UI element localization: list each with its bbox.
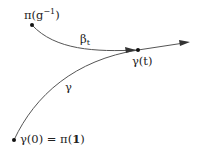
label-gamma-t: γ(t) (132, 56, 152, 68)
label-text: ) (55, 8, 60, 22)
label-text: π(g (24, 8, 43, 22)
label-text: ) (80, 132, 85, 146)
label-exponent: −1 (43, 7, 55, 16)
point-gamma-t (136, 48, 140, 52)
label-bold-identity: 1 (72, 132, 80, 146)
label-text: γ (65, 80, 72, 94)
point-pi-g-inverse (30, 23, 34, 27)
label-beta-t: βt (80, 34, 90, 47)
arrowhead-icon (125, 47, 136, 53)
label-gamma: γ (65, 82, 72, 94)
label-pi-g-inverse: π(g−1) (24, 8, 60, 22)
tangent-line (138, 43, 184, 50)
point-gamma-0 (12, 138, 16, 142)
arrowhead-icon (179, 40, 190, 46)
label-gamma-0: γ(0) = π(1) (20, 134, 85, 146)
curve-gamma (14, 50, 138, 140)
label-text: γ(t) (132, 54, 152, 68)
label-text: β (80, 32, 87, 46)
label-text: γ(0) = π( (20, 132, 72, 146)
label-subscript: t (87, 38, 90, 47)
